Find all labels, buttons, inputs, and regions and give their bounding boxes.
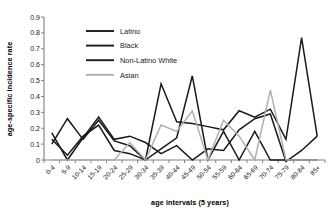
x-tick-label: 30-34 xyxy=(133,164,150,181)
series-line-non-latino-white xyxy=(52,76,317,160)
legend-label-black: Black xyxy=(120,41,138,50)
x-tick-label: 45-49 xyxy=(180,164,197,181)
y-tick-label: 0 xyxy=(36,157,40,164)
x-axis-tick-labels: 0-45-910-1415-1920-2425-2930-3435-3940-4… xyxy=(44,164,321,181)
y-tick-label: 0.4 xyxy=(30,93,40,100)
x-tick-label: 75-79 xyxy=(273,164,290,181)
x-axis-title: age intervals (5 years) xyxy=(151,198,229,207)
legend-label-asian: Asian xyxy=(120,71,139,80)
y-tick-label: 0.7 xyxy=(30,45,40,52)
x-tick-label: 0-4 xyxy=(44,164,56,176)
y-tick-label: 0.3 xyxy=(30,109,40,116)
y-tick-label: 0.9 xyxy=(30,14,40,21)
legend-label-latino: Latino xyxy=(120,27,140,36)
chart-container: 00.10.20.30.40.50.60.70.80.9 0-45-910-14… xyxy=(0,0,334,215)
y-tick-label: 0.5 xyxy=(30,77,40,84)
x-tick-label: 25-29 xyxy=(117,164,134,181)
x-tick-label: 5-9 xyxy=(60,164,72,176)
y-tick-label: 0.1 xyxy=(30,141,40,148)
x-tick-label: 35-39 xyxy=(148,164,165,181)
x-tick-label: 60-64 xyxy=(226,164,243,181)
x-tick-label: 15-19 xyxy=(86,164,103,181)
y-axis-tick-labels: 00.10.20.30.40.50.60.70.80.9 xyxy=(30,14,40,164)
x-tick-label: 55-59 xyxy=(211,164,228,181)
y-axis-title: age-specific incidence rate xyxy=(5,42,14,137)
x-tick-label: 20-24 xyxy=(102,164,119,181)
y-tick-label: 0.8 xyxy=(30,29,40,36)
line-chart: 00.10.20.30.40.50.60.70.80.9 0-45-910-14… xyxy=(0,0,334,215)
x-tick-label: 65-69 xyxy=(242,164,259,181)
x-tick-label: 10-14 xyxy=(70,164,87,181)
x-tick-label: 85+ xyxy=(309,164,322,177)
y-tick-label: 0.2 xyxy=(30,125,40,132)
x-tick-label: 40-44 xyxy=(164,164,181,181)
y-tick-label: 0.6 xyxy=(30,61,40,68)
x-tick-label: 80-84 xyxy=(289,164,306,181)
x-tick-label: 50-54 xyxy=(195,164,212,181)
legend-label-non-latino-white: Non-Latino White xyxy=(120,56,177,65)
series-line-asian xyxy=(52,90,317,160)
x-tick-label: 70-74 xyxy=(258,164,275,181)
series-lines-group xyxy=(52,38,317,162)
legend: LatinoBlackNon-Latino WhiteAsian xyxy=(86,27,177,80)
series-line-latino xyxy=(52,38,317,160)
